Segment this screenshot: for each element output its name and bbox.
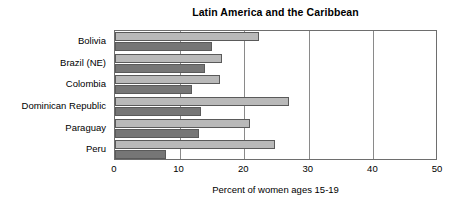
bar: [115, 140, 275, 149]
bar-group: [115, 53, 436, 75]
category-label: Dominican Republic: [0, 100, 106, 111]
bar-series-container: [115, 31, 436, 159]
x-tick-label: 20: [223, 163, 263, 174]
bar-group: [115, 96, 436, 118]
x-axis-tick-labels: 01020304050: [0, 163, 470, 177]
bar: [115, 54, 222, 63]
plot-area: [114, 30, 437, 160]
x-tick-label: 10: [159, 163, 199, 174]
bar-group: [115, 118, 436, 140]
category-axis-labels: BoliviaBrazil (NE)ColombiaDominican Repu…: [0, 30, 110, 160]
bar-group: [115, 74, 436, 96]
bar: [115, 75, 220, 84]
bar: [115, 129, 199, 138]
category-label: Bolivia: [0, 35, 106, 46]
category-label: Peru: [0, 143, 106, 154]
x-tick-label: 50: [417, 163, 457, 174]
category-label: Colombia: [0, 78, 106, 89]
bar-group: [115, 31, 436, 53]
x-tick-label: 40: [352, 163, 392, 174]
chart-figure: Latin America and the Caribbean BoliviaB…: [0, 0, 470, 205]
bar: [115, 85, 192, 94]
chart-title: Latin America and the Caribbean: [114, 6, 437, 18]
bar: [115, 97, 289, 106]
category-label: Brazil (NE): [0, 57, 106, 68]
bar: [115, 64, 205, 73]
x-tick-label: 0: [94, 163, 134, 174]
bar-group: [115, 139, 436, 161]
x-axis-title: Percent of women ages 15-19: [114, 184, 437, 195]
x-tick-label: 30: [288, 163, 328, 174]
bar: [115, 119, 250, 128]
bar: [115, 42, 212, 51]
bar: [115, 107, 201, 116]
category-label: Paraguay: [0, 122, 106, 133]
bar: [115, 150, 166, 159]
bar: [115, 32, 259, 41]
